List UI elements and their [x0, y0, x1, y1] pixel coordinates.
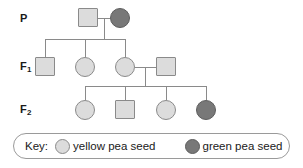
- generation-label-p: P: [20, 12, 28, 24]
- sibship-line-f2: [85, 86, 206, 87]
- pedigree-diagram: P F1 F2 Key: yellow pea seed green: [0, 0, 303, 168]
- generation-label-f2-text: F: [20, 103, 27, 115]
- generation-label-p-text: P: [20, 12, 28, 24]
- generation-label-f1-text: F: [20, 60, 27, 72]
- drop-line-f1-2: [85, 39, 86, 57]
- key-entry-green-label: green pea seed: [203, 140, 283, 152]
- individual-f2-4-circle: [196, 100, 216, 120]
- key-legend-box: Key: yellow pea seed green pea seed: [13, 133, 290, 159]
- generation-label-f2-subscript: 2: [27, 108, 32, 117]
- individual-f1-2-circle: [75, 57, 95, 77]
- generation-label-f1-subscript: 1: [27, 65, 32, 74]
- generation-label-f1: F1: [20, 60, 32, 72]
- descent-line-p-to-f1: [104, 18, 105, 39]
- individual-f1-4-square: [156, 57, 176, 76]
- drop-line-f1-1: [45, 39, 46, 57]
- drop-line-f2-2: [125, 86, 126, 100]
- drop-line-f1-3: [125, 39, 126, 57]
- drop-line-f2-1: [85, 86, 86, 100]
- individual-f2-3-circle: [156, 100, 176, 120]
- generation-label-f2: F2: [20, 103, 32, 115]
- drop-line-f2-4: [206, 86, 207, 100]
- drop-line-f2-3: [166, 86, 167, 100]
- key-label: Key:: [25, 140, 48, 152]
- individual-p1-square: [78, 8, 98, 27]
- individual-f1-3-circle: [115, 57, 135, 77]
- green-swatch-icon: [185, 139, 200, 154]
- individual-f2-1-circle: [75, 100, 95, 120]
- key-entry-yellow-label: yellow pea seed: [73, 140, 155, 152]
- individual-f2-2-square: [115, 100, 135, 119]
- individual-p2-circle: [110, 8, 130, 28]
- individual-f1-1-square: [35, 57, 55, 76]
- yellow-swatch-icon: [55, 139, 70, 154]
- descent-line-f1-to-f2: [145, 67, 146, 86]
